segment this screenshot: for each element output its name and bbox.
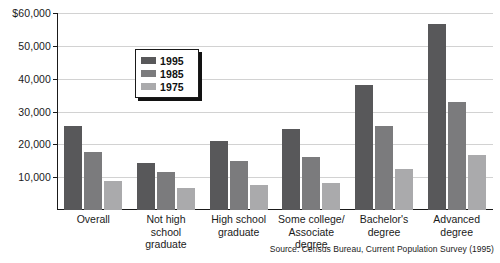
x-axis-tick-label-line: school — [130, 226, 203, 239]
y-axis-tick-label: $60,000 — [12, 7, 51, 19]
bar — [250, 185, 268, 210]
x-axis-tick-label-line: High school — [202, 213, 275, 226]
x-axis-tick-label-line: Advanced — [420, 213, 493, 226]
x-axis-tick-label-line: Overall — [57, 213, 130, 226]
bar — [137, 163, 155, 210]
legend-item: 1995 — [141, 54, 193, 67]
x-axis-tick-label-line: degree — [348, 226, 421, 239]
bar — [157, 172, 175, 210]
bar — [375, 126, 393, 210]
legend-label: 1985 — [160, 68, 184, 80]
x-axis-tick-label-line: graduate — [130, 238, 203, 251]
x-axis-tick-label-line: Some college/ — [275, 213, 348, 226]
y-axis-tick-label: 20,000 — [18, 138, 51, 150]
x-axis-tick-label-line: Not high — [130, 213, 203, 226]
x-axis-tick-label: Overall — [57, 213, 130, 226]
bar — [104, 181, 122, 210]
legend-item: 1985 — [141, 67, 193, 80]
y-axis-labels: $60,00050,00040,00030,00020,00010,000 — [0, 13, 51, 210]
legend-item: 1975 — [141, 80, 193, 93]
bar — [210, 141, 228, 210]
bar-group — [275, 13, 348, 210]
bar — [395, 169, 413, 210]
legend-label: 1975 — [160, 81, 184, 93]
x-axis-tick-label: High schoolgraduate — [202, 213, 275, 238]
x-axis-tick-label: Advanceddegree — [420, 213, 493, 238]
legend: 199519851975 — [135, 49, 199, 98]
bar-group — [420, 13, 493, 210]
x-axis-tick-label-line: graduate — [202, 226, 275, 239]
bar — [230, 161, 248, 210]
y-axis-tick-label: 30,000 — [18, 106, 51, 118]
bar-group — [348, 13, 421, 210]
source-note: Source: Census Bureau, Current Populatio… — [270, 244, 494, 254]
bar-chart: $60,00050,00040,00030,00020,00010,000 Ov… — [0, 0, 500, 263]
legend-swatch-icon — [141, 70, 156, 77]
bar — [64, 126, 82, 210]
bar — [177, 188, 195, 210]
y-axis-tick-label: 50,000 — [18, 40, 51, 52]
y-axis-tick-label: 40,000 — [18, 73, 51, 85]
legend-label: 1995 — [160, 55, 184, 67]
x-axis-tick-label: Bachelor'sdegree — [348, 213, 421, 238]
bar-group — [202, 13, 275, 210]
bar — [84, 152, 102, 210]
bar — [468, 155, 486, 210]
bar — [448, 102, 466, 210]
x-axis-tick-label-line: degree — [420, 226, 493, 239]
legend-swatch-icon — [141, 57, 156, 64]
bar-group — [57, 13, 130, 210]
x-axis-tick-label-line: Associate — [275, 226, 348, 239]
bar — [302, 157, 320, 210]
bar — [282, 129, 300, 210]
bar — [355, 85, 373, 210]
bar — [322, 183, 340, 210]
legend-swatch-icon — [141, 83, 156, 90]
bar — [428, 24, 446, 210]
bar-groups — [57, 13, 493, 210]
bar-group — [130, 13, 203, 210]
x-axis-tick-label-line: Bachelor's — [348, 213, 421, 226]
x-axis-tick-label: Not highschoolgraduate — [130, 213, 203, 251]
y-axis-tick-label: 10,000 — [18, 171, 51, 183]
